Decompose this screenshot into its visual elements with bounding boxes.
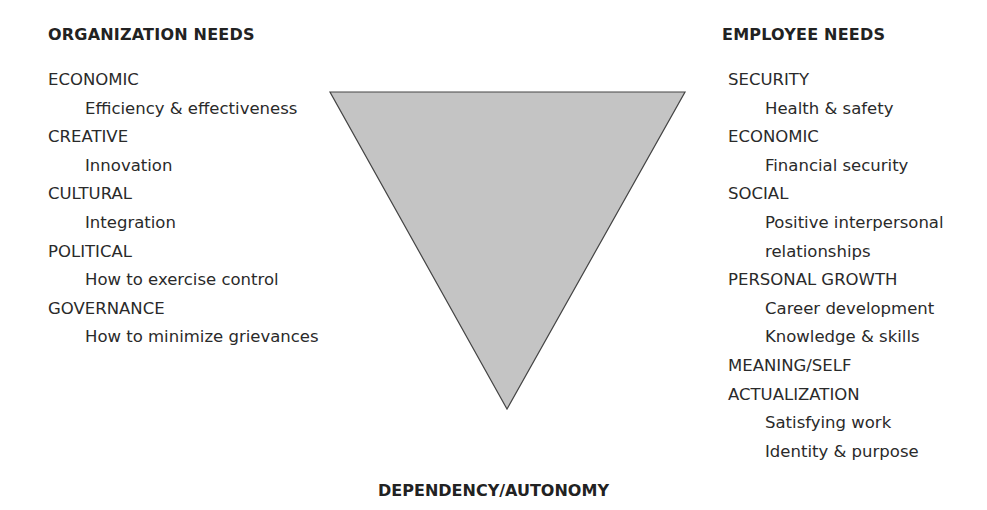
inverted-triangle-shape xyxy=(0,0,987,510)
triangle-polygon xyxy=(330,92,685,409)
dependency-autonomy-label: DEPENDENCY/AUTONOMY xyxy=(0,481,987,500)
